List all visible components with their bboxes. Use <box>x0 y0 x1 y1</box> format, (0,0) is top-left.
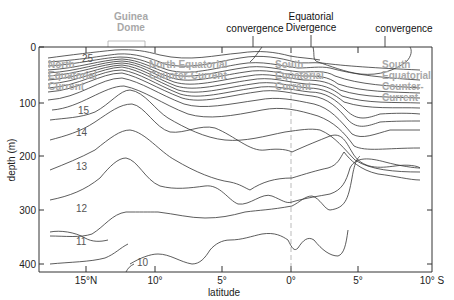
y-tick-400: 400 <box>19 259 36 270</box>
isotherm-label-10: 10 <box>137 257 149 268</box>
convergence-label-north: convergence <box>226 23 284 34</box>
x-tick-10s: 10° S <box>420 275 445 286</box>
isotherm-label-13: 13 <box>76 161 88 172</box>
y-tick-300: 300 <box>19 205 36 216</box>
isotherm-15 <box>50 90 420 172</box>
isotherm-label-15: 15 <box>78 105 90 116</box>
isotherm-label-11: 11 <box>76 236 87 247</box>
isotherm-10b <box>50 244 128 264</box>
y-tick-100: 100 <box>19 98 36 109</box>
isotherm-label-25: 25 <box>82 53 94 64</box>
x-axis-label: latitude <box>208 287 241 298</box>
svg-text:North: North <box>48 59 75 70</box>
upper-isotherms <box>48 50 420 150</box>
divergence-label-1: Equatorial <box>288 11 333 22</box>
svg-text:South: South <box>275 59 303 70</box>
divergence-label-2: Divergence <box>286 22 337 33</box>
svg-text:Counter-: Counter- <box>382 81 424 92</box>
x-tick-5n: 5° <box>217 275 227 286</box>
y-tick-200: 200 <box>19 151 36 162</box>
guinea-dome-label-2: Dome <box>117 22 145 33</box>
x-tick-5s: 5° <box>353 275 363 286</box>
svg-text:Current: Current <box>382 92 419 103</box>
y-tick-0: 0 <box>30 42 36 53</box>
convergence-isotherm <box>250 47 262 62</box>
svg-text:South: South <box>382 59 410 70</box>
svg-text:Current: Current <box>48 81 85 92</box>
svg-text:Equatorial: Equatorial <box>48 70 97 81</box>
svg-text:Equatorial: Equatorial <box>382 70 431 81</box>
isotherm-14 <box>50 104 420 168</box>
sec-label: South Equatorial Current <box>275 59 324 92</box>
convergence-label-south: convergence <box>375 23 433 34</box>
svg-text:Equatorial: Equatorial <box>275 70 324 81</box>
guinea-dome-bracket <box>108 41 145 47</box>
isotherm-11-upper <box>50 156 360 237</box>
isotherm-10 <box>126 264 134 272</box>
guinea-dome-label-1: Guinea <box>114 11 148 22</box>
isotherm-label-14: 14 <box>76 127 88 138</box>
svg-text:North Equatorial: North Equatorial <box>149 59 228 70</box>
x-tick-0: 0° <box>286 275 296 286</box>
svg-text:Counter-Current: Counter-Current <box>149 70 227 81</box>
secc-label: South Equatorial Counter- Current <box>382 59 431 103</box>
necc-label: North Equatorial Counter-Current <box>149 59 228 81</box>
temperature-section-diagram: Guinea Dome convergence Equatorial Diver… <box>0 0 454 300</box>
x-tick-10n: 10° <box>147 275 162 286</box>
y-axis-label: depth (m) <box>6 139 17 182</box>
svg-text:Current: Current <box>275 81 312 92</box>
isotherm-label-12: 12 <box>76 203 88 214</box>
x-tick-15n: 15°N <box>75 275 97 286</box>
isotherm-11-lower <box>130 230 348 264</box>
